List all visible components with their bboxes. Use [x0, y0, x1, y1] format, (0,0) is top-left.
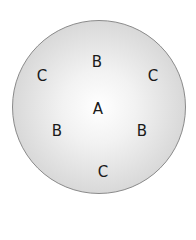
label-c-top-left: C — [37, 69, 47, 84]
label-c-bottom: C — [98, 165, 108, 180]
label-b-left: B — [52, 124, 62, 139]
label-b-top: B — [92, 55, 102, 70]
label-b-right: B — [137, 124, 147, 139]
label-c-top-right: C — [148, 69, 158, 84]
label-a-center: A — [93, 102, 103, 117]
